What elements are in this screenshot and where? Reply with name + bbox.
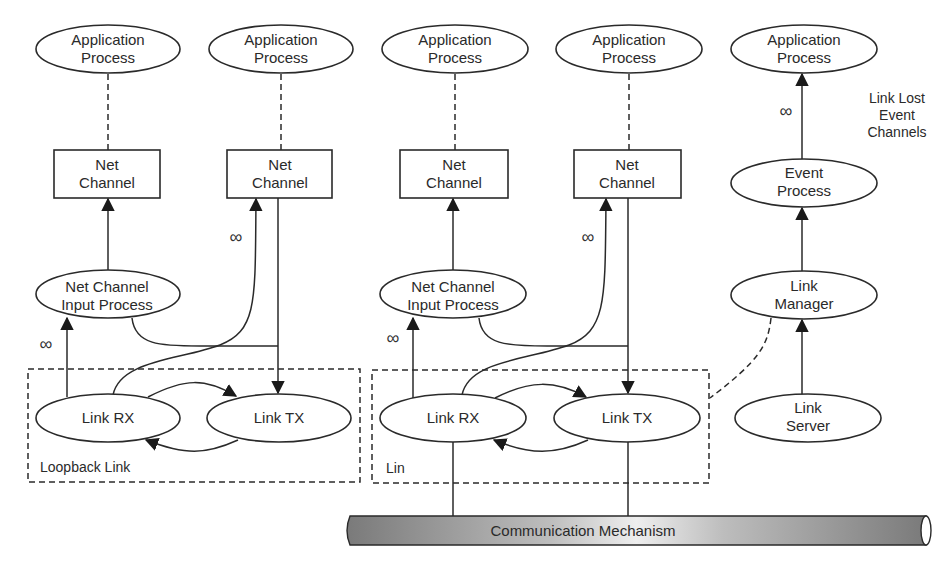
svg-text:Channel: Channel [252, 174, 308, 191]
svg-text:Net: Net [268, 156, 292, 173]
link-lost-event-channels-label: Link Lost Event Channels [867, 90, 926, 140]
loopback-link-label: Loopback Link [40, 459, 131, 475]
application-process-node[interactable]: Application Process [556, 25, 702, 73]
lin-label: Lin [386, 460, 405, 476]
svg-text:∞: ∞ [230, 227, 243, 247]
svg-text:∞: ∞ [780, 101, 793, 121]
loopback-group: Application Process Application Process … [28, 25, 360, 482]
net-channel-node[interactable]: Net Channel [574, 150, 681, 198]
net-channel-node[interactable]: Net Channel [400, 150, 508, 198]
svg-text:Process: Process [777, 182, 831, 199]
svg-text:Process: Process [602, 49, 656, 66]
link-server-node[interactable]: Link Server [735, 394, 881, 442]
svg-text:∞: ∞ [387, 328, 400, 348]
svg-text:Application: Application [244, 31, 317, 48]
process-diagram: Application Process Application Process … [0, 0, 941, 567]
link-tx-node[interactable]: Link TX [207, 394, 351, 442]
link-tx-node[interactable]: Link TX [554, 394, 700, 442]
svg-text:Application: Application [418, 31, 491, 48]
event-process-node[interactable]: Event Process [731, 159, 877, 207]
svg-text:∞: ∞ [582, 227, 595, 247]
svg-text:Application: Application [592, 31, 665, 48]
curve-edge [479, 318, 628, 346]
svg-text:Event: Event [879, 107, 915, 123]
net-channel-input-process-node[interactable]: Net Channel Input Process [380, 270, 526, 318]
svg-text:Application: Application [767, 31, 840, 48]
svg-text:Process: Process [81, 49, 135, 66]
svg-text:Input Process: Input Process [407, 296, 499, 313]
curve-edge [132, 318, 278, 346]
curve-edge [494, 440, 588, 451]
svg-text:Net: Net [442, 156, 466, 173]
svg-text:Net: Net [615, 156, 639, 173]
svg-text:Link RX: Link RX [427, 409, 480, 426]
svg-text:Link TX: Link TX [602, 409, 653, 426]
svg-text:Net: Net [95, 156, 119, 173]
application-process-node[interactable]: Application Process [382, 25, 528, 73]
application-process-node[interactable]: Application Process [209, 25, 353, 73]
communication-mechanism-bus[interactable]: Communication Mechanism [347, 516, 931, 545]
net-channel-node[interactable]: Net Channel [54, 150, 160, 198]
svg-text:Net Channel: Net Channel [65, 278, 148, 295]
svg-text:Channel: Channel [79, 174, 135, 191]
svg-text:Application: Application [71, 31, 144, 48]
net-channel-input-process-node[interactable]: Net Channel Input Process [36, 270, 180, 318]
svg-text:Manager: Manager [774, 295, 833, 312]
lin-group: Application Process Application Process … [372, 25, 709, 520]
svg-text:Channel: Channel [426, 174, 482, 191]
svg-text:Link: Link [790, 277, 818, 294]
svg-text:Process: Process [777, 49, 831, 66]
link-rx-node[interactable]: Link RX [380, 394, 526, 442]
application-process-node[interactable]: Application Process [36, 25, 180, 73]
svg-text:Link: Link [794, 399, 822, 416]
svg-text:Link TX: Link TX [254, 409, 305, 426]
svg-text:Process: Process [254, 49, 308, 66]
curve-edge [146, 440, 238, 451]
svg-text:Channel: Channel [599, 174, 655, 191]
svg-text:∞: ∞ [40, 334, 53, 354]
link-manager-node[interactable]: Link Manager [731, 271, 877, 319]
application-process-node[interactable]: Application Process [731, 25, 877, 73]
net-channel-node[interactable]: Net Channel [227, 150, 332, 198]
dashed-curve [710, 318, 771, 398]
curve-edge [148, 383, 236, 397]
svg-text:Event: Event [785, 164, 824, 181]
link-rx-node[interactable]: Link RX [36, 394, 180, 442]
svg-text:Input Process: Input Process [61, 296, 153, 313]
svg-text:Process: Process [428, 49, 482, 66]
link-manager-group: ∞ Link Lost Event Channels Application P… [710, 25, 927, 442]
svg-text:Net Channel: Net Channel [411, 278, 494, 295]
svg-text:Link Lost: Link Lost [869, 90, 925, 106]
bus-label: Communication Mechanism [490, 522, 675, 539]
curve-edge [495, 384, 586, 398]
svg-text:Link RX: Link RX [82, 409, 135, 426]
svg-text:Server: Server [786, 417, 830, 434]
svg-text:Channels: Channels [867, 124, 926, 140]
